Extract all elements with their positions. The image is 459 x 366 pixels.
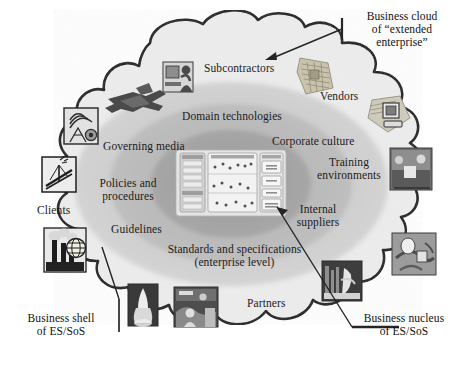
person-at-computer-icon — [163, 62, 193, 92]
diagram-svg — [0, 0, 459, 366]
factory-globe-icon — [44, 228, 86, 272]
pipeline-valve-photo-icon — [392, 233, 436, 275]
team-photo-icon — [174, 287, 218, 327]
industrial-machinery-photo-icon — [322, 261, 362, 301]
bridge-construction-icon — [42, 157, 76, 192]
antenna-radar-icon — [64, 108, 98, 144]
figure-canvas: Business cloud of “extended enterprise” … — [0, 0, 459, 366]
enterprise-architecture-thumbnail — [176, 150, 286, 216]
space-shuttle-launch-icon — [128, 284, 158, 327]
laboratory-people-photo-icon — [390, 148, 432, 190]
